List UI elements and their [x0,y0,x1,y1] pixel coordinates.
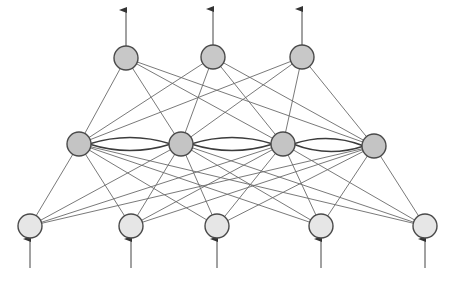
edge-hidden2-output3 [181,57,302,144]
input-node-4 [309,214,333,238]
lateral-lower-h2-h3 [191,144,273,151]
lateral-upper-h1-h2 [89,138,171,145]
edge-hidden1-output1 [79,58,126,144]
output-node-1 [114,46,138,70]
input-node-1 [18,214,42,238]
edge-hidden1-output3 [79,57,302,144]
hidden-node-3 [271,132,295,156]
edge-input3-hidden3 [217,144,283,226]
neural-network-diagram [0,0,454,287]
lateral-upper-h3-h4 [293,138,364,146]
edge-input5-hidden4 [374,146,425,226]
edge-input3-hidden1 [79,144,217,226]
edge-input1-hidden1 [30,144,79,226]
output-node-2 [201,45,225,69]
edge-input4-hidden4 [321,146,374,226]
edge-hidden4-output1 [126,58,374,146]
edge-hidden2-output2 [181,57,213,144]
input-node-2 [119,214,143,238]
edge-hidden3-output2 [213,57,283,144]
edge-hidden4-output3 [302,57,374,146]
edge-hidden1-output2 [79,57,213,144]
edge-input2-hidden1 [79,144,131,226]
edge-hidden4-output2 [213,57,374,146]
input-hidden-connections [30,144,425,226]
input-layer [18,214,437,238]
edge-input2-hidden2 [131,144,181,226]
output-node-3 [290,45,314,69]
hidden-lateral-connections [89,138,364,152]
edge-input2-hidden3 [131,144,283,226]
hidden-node-2 [169,132,193,156]
hidden-node-4 [362,134,386,158]
input-node-3 [205,214,229,238]
lateral-upper-h2-h3 [191,138,273,145]
edge-hidden3-output1 [126,58,283,144]
output-layer [114,45,314,70]
edge-hidden2-output1 [126,58,181,144]
input-node-5 [413,214,437,238]
hidden-node-1 [67,132,91,156]
